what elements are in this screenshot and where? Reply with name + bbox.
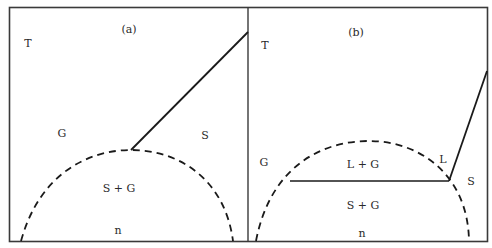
panel-a-caption: (a) [121, 24, 136, 35]
panel-a-region-coexistence: S + G [103, 183, 136, 194]
panel-b-region-solid: S [467, 176, 475, 187]
panel-a-phase-line [131, 32, 248, 150]
panel-b-phase-line [449, 71, 487, 181]
panel-a-coexistence-dome [21, 150, 233, 241]
panel-b-x-axis-label: n [358, 228, 365, 239]
panel-a [21, 32, 248, 241]
panel-b-region-liquid: L [439, 154, 446, 165]
panel-b-y-axis-label: T [261, 40, 268, 51]
panel-a-region-solid: S [201, 130, 209, 141]
panel-a-x-axis-label: n [114, 225, 121, 236]
panel-b [256, 71, 487, 241]
panel-a-y-axis-label: T [24, 38, 31, 49]
panel-b-region-liquid-gas: L + G [347, 159, 379, 170]
diagram-canvas [0, 0, 492, 248]
panel-a-region-gas: G [58, 128, 67, 139]
panel-b-caption: (b) [348, 27, 364, 38]
phase-diagram-figure: (a) T G S S + G n (b) T G L + G L S S + … [0, 0, 492, 248]
panel-b-region-gas: G [260, 157, 269, 168]
panel-b-region-solid-gas: S + G [347, 200, 380, 211]
